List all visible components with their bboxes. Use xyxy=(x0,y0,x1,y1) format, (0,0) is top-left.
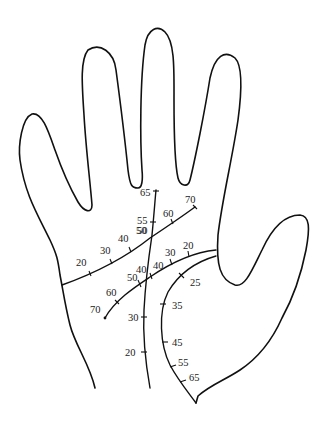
heart-line-marker-60: 60 xyxy=(163,208,174,219)
fate-line-marker-50: 50 xyxy=(137,225,148,236)
head-line-marker-60: 60 xyxy=(106,287,117,298)
fate-line-marker-65: 65 xyxy=(140,187,151,198)
fate-line-marker-40: 40 xyxy=(136,264,147,275)
fate-line-marker-55: 55 xyxy=(137,215,148,226)
life-line-marker-45: 45 xyxy=(172,337,183,348)
head-line-marker-30: 30 xyxy=(165,247,176,258)
heart-line-marker-30: 30 xyxy=(100,245,111,256)
heart-line-marker-40: 40 xyxy=(118,233,129,244)
head-line-marker-40: 40 xyxy=(153,260,164,271)
life-line-marker-25: 25 xyxy=(190,277,201,288)
life-line-marker-65: 65 xyxy=(189,372,200,383)
head-line-end-dot xyxy=(104,317,107,320)
life-line-marker-55: 55 xyxy=(178,357,189,368)
life-line-marker-35: 35 xyxy=(172,300,183,311)
heart-line-marker-20: 20 xyxy=(76,257,87,268)
fate-line-marker-20: 20 xyxy=(125,347,136,358)
head-line-marker-20: 20 xyxy=(183,240,194,251)
fate-line-marker-30: 30 xyxy=(128,312,139,323)
head-line-marker-70: 70 xyxy=(90,304,101,315)
heart-line-marker-70: 70 xyxy=(185,194,196,205)
palm-diagram: 20 30 40 50 60 70 20 30 40 50 60 70 25 3… xyxy=(0,0,327,423)
